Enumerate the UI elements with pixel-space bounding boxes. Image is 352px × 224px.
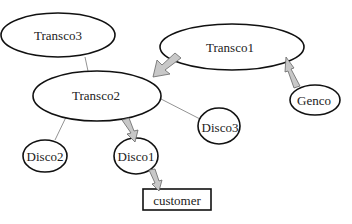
flow-arrow-disco1-customer	[149, 169, 162, 191]
node-label-transco2: Transco2	[72, 88, 120, 103]
flow-arrow-genco-transco1	[285, 57, 300, 88]
node-customer: customer	[143, 189, 211, 210]
node-label-disco3: Disco3	[202, 120, 239, 135]
node-label-disco2: Disco2	[27, 149, 64, 164]
node-disco2: Disco2	[23, 140, 67, 172]
node-label-disco1: Disco1	[118, 149, 155, 164]
node-label-transco3: Transco3	[34, 28, 82, 43]
edge-transco3-transco2	[85, 57, 88, 71]
node-disco3: Disco3	[198, 108, 240, 144]
node-disco1: Disco1	[114, 138, 158, 174]
node-transco3: Transco3	[1, 13, 115, 57]
node-label-customer: customer	[153, 193, 201, 208]
node-transco1: Transco1	[160, 24, 304, 70]
node-genco: Genco	[290, 85, 340, 115]
node-label-transco1: Transco1	[206, 40, 254, 55]
network-diagram: Transco3 Transco1 Transco2 Genco Disco3 …	[0, 0, 352, 224]
node-label-genco: Genco	[297, 93, 331, 108]
edge-transco2-disco3	[161, 99, 200, 119]
node-transco2: Transco2	[33, 71, 161, 121]
